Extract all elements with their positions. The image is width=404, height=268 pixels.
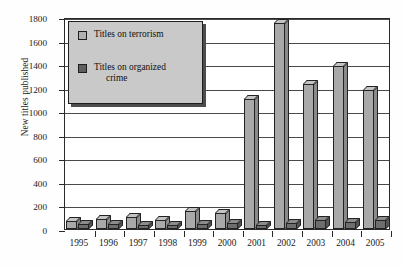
- bar-side: [374, 86, 378, 229]
- bar: [333, 66, 344, 229]
- bar: [66, 221, 77, 229]
- bar: [155, 220, 166, 229]
- y-axis-tick: [59, 113, 65, 114]
- x-axis-tick: [391, 231, 392, 237]
- bar: [108, 224, 119, 229]
- bar: [167, 225, 178, 229]
- bar-face: [155, 220, 166, 229]
- y-axis-tick: [59, 184, 65, 185]
- bar-face: [363, 90, 374, 229]
- bar: [126, 217, 137, 229]
- bar-chart: New titles published 0200400600800100012…: [0, 0, 404, 268]
- bar-side: [285, 19, 289, 229]
- x-axis-labels: 1995199619971998199920002001200220032004…: [64, 230, 390, 260]
- legend-entry: Titles on terrorism: [78, 29, 195, 41]
- y-axis-tick-label: 1000: [7, 108, 47, 118]
- bar: [185, 211, 196, 229]
- bar: [256, 225, 267, 229]
- bar: [363, 90, 374, 229]
- bar-face: [315, 220, 326, 229]
- bar-side: [255, 95, 259, 229]
- bar: [197, 224, 208, 229]
- bar: [375, 220, 386, 229]
- bar-face: [375, 220, 386, 229]
- y-axis-tick-label: 1800: [7, 14, 47, 24]
- bar: [96, 219, 107, 229]
- gridline: [65, 19, 389, 20]
- y-axis-tick: [59, 207, 65, 208]
- bar: [286, 223, 297, 229]
- bar: [345, 222, 356, 229]
- y-axis-tick: [59, 160, 65, 161]
- bar-face: [185, 211, 196, 229]
- bar: [274, 23, 285, 229]
- bar-face: [303, 84, 314, 229]
- bar-face: [126, 217, 137, 229]
- bar: [303, 84, 314, 229]
- bar-face: [66, 221, 77, 229]
- bar-face: [78, 224, 89, 229]
- bar-face: [215, 213, 226, 229]
- bar-face: [333, 66, 344, 229]
- bar: [227, 223, 238, 229]
- legend-label: Titles on organizedcrime: [94, 62, 166, 85]
- bar-face: [167, 225, 178, 229]
- bar: [138, 225, 149, 229]
- y-axis-tick-label: 1400: [7, 61, 47, 71]
- y-axis-tick-label: 1600: [7, 38, 47, 48]
- bar-face: [96, 219, 107, 229]
- y-axis-tick: [59, 137, 65, 138]
- y-axis-tick-label: 600: [7, 155, 47, 165]
- bar-face: [274, 23, 285, 229]
- y-axis-tick: [59, 66, 65, 67]
- y-axis-tick: [59, 90, 65, 91]
- y-axis-tick-label: 400: [7, 179, 47, 189]
- legend-swatch-dark-icon: [78, 64, 87, 73]
- y-axis-tick-label: 1200: [7, 85, 47, 95]
- bar-face: [108, 224, 119, 229]
- legend-swatch-light-icon: [78, 31, 87, 40]
- bar-side: [314, 80, 318, 229]
- bar-face: [138, 225, 149, 229]
- bar-face: [197, 224, 208, 229]
- bar-face: [256, 225, 267, 229]
- bar: [244, 99, 255, 229]
- bar-side: [344, 62, 348, 229]
- y-axis-tick-label: 0: [7, 226, 47, 236]
- bar-face: [345, 222, 356, 229]
- x-axis-tick-label: 2005: [355, 238, 395, 248]
- legend-label: Titles on terrorism: [94, 29, 163, 41]
- y-axis-tick-label: 200: [7, 202, 47, 212]
- bar-face: [286, 223, 297, 229]
- y-axis-tick: [59, 43, 65, 44]
- y-axis-tick: [59, 19, 65, 20]
- chart-legend: Titles on terrorismTitles on organizedcr…: [68, 21, 203, 104]
- bar: [78, 224, 89, 229]
- y-axis-tick-label: 800: [7, 132, 47, 142]
- bar-face: [227, 223, 238, 229]
- legend-label-line2: crime: [94, 73, 166, 85]
- bar: [215, 213, 226, 229]
- bar-face: [244, 99, 255, 229]
- bar: [315, 220, 326, 229]
- legend-entry: Titles on organizedcrime: [78, 62, 195, 85]
